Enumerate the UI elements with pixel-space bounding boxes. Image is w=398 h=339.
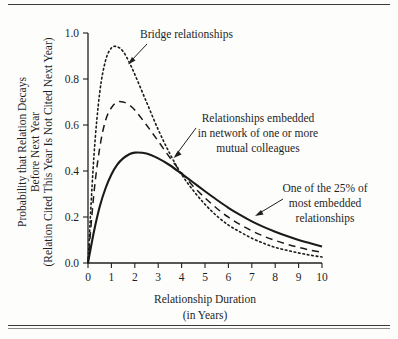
x-tick-label-0: 0 [85,271,91,283]
x-axis-title: Relationship Duration (in Years) [154,293,256,322]
y-tick-label-5: 1.0 [65,27,80,39]
annotation-bridge-line-1: Bridge relationships [140,28,233,41]
x-axis-title-line-1: Relationship Duration [154,293,256,306]
annotation-mutual-arrow-icon [174,151,182,159]
y-axis-title-line-2: Before Next Year [29,112,41,192]
x-axis-title-line-2: (in Years) [183,309,228,322]
x-tick-label-8: 8 [272,271,278,283]
annotation-mutual-line-2: in network of one or more [198,127,318,139]
annotation-mutual-line-1: Relationships embedded [202,112,315,125]
curve-most-embedded [88,153,322,263]
y-tick-label-2: 0.4 [65,165,80,177]
y-tick-marks [83,33,88,263]
y-tick-label-1: 0.2 [65,211,80,223]
chart-stage: Probability that Relation Decays Before … [0,0,398,339]
x-tick-label-9: 9 [296,271,302,283]
x-tick-label-10: 10 [316,271,328,283]
annotation-most-embedded: One of the 25% of most embedded relation… [255,182,368,225]
decay-hazard-chart: Probability that Relation Decays Before … [0,0,398,339]
curve-bridge-relationships [88,46,322,263]
annotation-mutual-line-3: mutual colleagues [216,142,300,155]
y-axis-title-line-3: (Relation Cited This Year Is Not Cited N… [42,37,55,266]
x-tick-label-5: 5 [202,271,208,283]
y-tick-label-3: 0.6 [65,119,80,131]
y-axis-title: Probability that Relation Decays Before … [16,37,55,266]
annotation-embedded-line-3: relationships [296,212,355,225]
x-tick-label-6: 6 [226,271,232,283]
x-tick-label-7: 7 [249,271,255,283]
y-tick-label-4: 0.8 [65,73,80,85]
x-tick-label-4: 4 [179,271,185,283]
y-tick-label-0: 0.0 [65,257,80,269]
annotation-bridge-arrow-icon [128,57,136,65]
y-axis-title-line-1: Probability that Relation Decays [16,77,29,227]
annotation-mutual-leader [176,128,196,155]
annotation-embedded-line-2: most embedded [289,197,362,209]
x-tick-label-3: 3 [155,271,161,283]
figure-frame: Probability that Relation Decays Before … [0,0,398,339]
curve-group [88,46,322,263]
x-tick-marks [88,263,322,268]
x-tick-label-1: 1 [109,271,115,283]
y-tick-labels: 0.0 0.2 0.4 0.6 0.8 1.0 [65,27,80,269]
x-tick-labels: 0 1 2 3 4 5 6 7 8 9 10 [85,271,328,283]
annotation-bridge-relationships: Bridge relationships [128,28,233,65]
x-tick-label-2: 2 [132,271,138,283]
annotation-mutual-colleagues: Relationships embedded in network of one… [174,112,319,158]
annotation-embedded-line-1: One of the 25% of [283,182,368,194]
